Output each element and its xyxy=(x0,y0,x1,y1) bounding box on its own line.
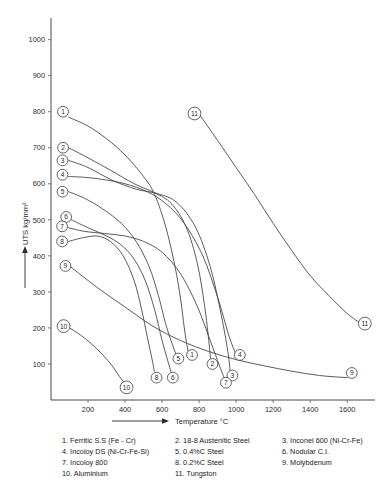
marker-label: 1 xyxy=(190,351,194,358)
series-end-marker-5: 5 xyxy=(173,353,184,364)
marker-label: 5 xyxy=(177,355,181,362)
legend-item-11: 11. Tungston xyxy=(175,469,282,479)
series-start-marker-10: 10 xyxy=(57,320,70,333)
x-tick-label: 1000 xyxy=(228,405,244,414)
series-start-marker-4: 4 xyxy=(57,169,68,180)
series-start-marker-3: 3 xyxy=(57,155,68,166)
y-tick-label: 800 xyxy=(33,107,45,116)
y-tick-label: 500 xyxy=(33,216,45,225)
marker-label: 2 xyxy=(211,360,215,367)
y-tick-label: 700 xyxy=(33,143,45,152)
legend-item-4: 4. Incoloy DS (Ni-Cr-Fe-Si) xyxy=(62,447,175,457)
legend-item-6: 6. Nodular C.I. xyxy=(282,447,372,457)
marker-label: 1 xyxy=(61,108,65,115)
x-tick-label: 200 xyxy=(82,405,94,414)
y-axis-title: UTS kg/mm² xyxy=(21,202,30,288)
series-start-marker-5: 5 xyxy=(57,186,68,197)
marker-label: 6 xyxy=(171,374,175,381)
marker-label: 4 xyxy=(238,351,242,358)
marker-label: 6 xyxy=(64,213,68,220)
x-tick-label: 800 xyxy=(193,405,205,414)
series-curve-2 xyxy=(69,148,211,360)
series-curve-6 xyxy=(71,220,171,372)
marker-label: 9 xyxy=(64,262,68,269)
x-axis-arrow-head xyxy=(162,418,169,424)
chart-axes: 1002003004005006007008009001000 20040060… xyxy=(29,18,375,414)
y-tick-label: 400 xyxy=(33,252,45,261)
legend-grid: 1. Ferritic S.S (Fe - Cr) 2. 18-8 Austen… xyxy=(62,436,372,478)
legend: 1. Ferritic S.S (Fe - Cr) 2. 18-8 Austen… xyxy=(0,432,378,491)
marker-label: 7 xyxy=(60,223,64,230)
marker-label: 3 xyxy=(61,157,65,164)
legend-item-5: 5. 0.4%C Steel xyxy=(175,447,282,457)
y-tick-label: 600 xyxy=(33,179,45,188)
series-curve-10 xyxy=(70,328,126,384)
legend-item-7: 7. Incoloy 800 xyxy=(62,458,175,468)
uts-temperature-line-chart: 1002003004005006007008009001000 20040060… xyxy=(0,0,378,430)
series-end-marker-6: 6 xyxy=(167,372,178,383)
y-tick-label: 100 xyxy=(33,360,45,369)
legend-item-1: 1. Ferritic S.S (Fe - Cr) xyxy=(62,436,175,446)
series-start-marker-1: 1 xyxy=(58,106,69,117)
y-tick-label: 1000 xyxy=(29,35,45,44)
series-end-marker-10: 10 xyxy=(120,381,133,394)
marker-label: 7 xyxy=(224,379,228,386)
series-start-marker-9: 9 xyxy=(60,261,71,272)
marker-label: 9 xyxy=(350,369,354,376)
series-end-marker-2: 2 xyxy=(207,359,218,370)
series-curve-5 xyxy=(69,192,177,357)
series-start-marker-7: 7 xyxy=(57,221,68,232)
legend-item-3: 3. Inconel 600 (Ni-Cr-Fe) xyxy=(282,436,372,446)
legend-item-2: 2. 18-8 Austenitic Steel xyxy=(175,436,282,446)
series-end-marker-1: 1 xyxy=(187,350,198,361)
marker-label: 10 xyxy=(60,323,68,330)
marker-label: 11 xyxy=(361,320,368,327)
series-curve-8 xyxy=(69,236,155,371)
marker-label: 5 xyxy=(61,188,65,195)
x-tick-label: 1400 xyxy=(302,405,318,414)
legend-item-8: 8. 0.2%C Steel xyxy=(175,458,282,468)
x-axis-title: Temperature °C xyxy=(112,417,229,426)
x-tick-label: 1200 xyxy=(265,405,281,414)
y-axis-arrow-head xyxy=(22,246,28,253)
y-tick-label: 300 xyxy=(33,288,45,297)
x-tick-label: 400 xyxy=(119,405,131,414)
marker-label: 4 xyxy=(61,171,65,178)
series-start-marker-8: 8 xyxy=(57,236,68,247)
marker-label: 8 xyxy=(60,238,64,245)
y-axis-title-text: UTS kg/mm² xyxy=(21,202,30,245)
marker-label: 10 xyxy=(123,384,131,391)
marker-label: 8 xyxy=(155,374,159,381)
series-end-marker-9: 9 xyxy=(346,368,357,379)
marker-label: 11 xyxy=(191,110,198,117)
chart-series-curves xyxy=(69,115,362,383)
x-axis-ticks: 2004006008001000120014001600 xyxy=(82,400,356,414)
y-axis-ticks: 1002003004005006007008009001000 xyxy=(29,35,51,368)
x-axis-title-text: Temperature °C xyxy=(175,417,229,426)
legend-item-9: 9. Molybdenum xyxy=(282,458,372,468)
y-tick-label: 900 xyxy=(33,71,45,80)
uts-vs-temperature-figure: 1002003004005006007008009001000 20040060… xyxy=(0,0,378,491)
series-start-marker-2: 2 xyxy=(58,142,69,153)
marker-label: 3 xyxy=(231,372,235,379)
y-tick-label: 200 xyxy=(33,324,45,333)
x-tick-label: 1600 xyxy=(339,405,355,414)
series-curve-7 xyxy=(69,228,225,380)
series-curve-1 xyxy=(69,117,189,355)
series-end-marker-4: 4 xyxy=(234,350,245,361)
series-curve-3 xyxy=(69,160,231,372)
series-start-marker-11: 11 xyxy=(188,107,201,120)
axis-lines xyxy=(51,18,375,400)
legend-item-10: 10. Aluminium xyxy=(62,469,175,479)
series-curve-11 xyxy=(200,115,362,324)
series-end-marker-8: 8 xyxy=(151,372,162,383)
series-end-marker-7: 7 xyxy=(221,377,232,388)
series-end-marker-11: 11 xyxy=(358,317,371,330)
marker-label: 2 xyxy=(61,144,65,151)
x-tick-label: 600 xyxy=(156,405,168,414)
